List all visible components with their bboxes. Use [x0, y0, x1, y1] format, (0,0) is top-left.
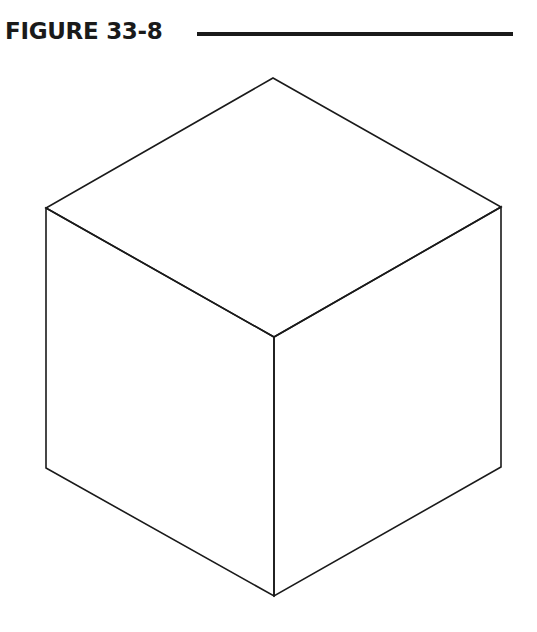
cube-left-face — [46, 208, 274, 596]
cube-diagram — [0, 0, 537, 632]
cube-right-face — [274, 207, 501, 596]
cube-top-face — [46, 78, 501, 337]
